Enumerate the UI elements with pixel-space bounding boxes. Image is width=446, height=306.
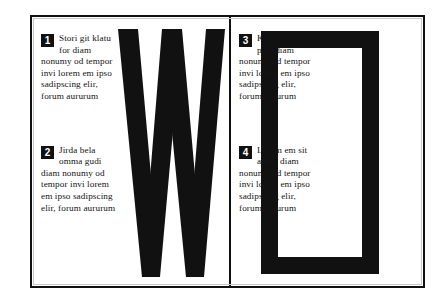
block-body-text: diam nonumy od tempor invi lorem em ipso…: [239, 45, 311, 101]
step-badge-4: 4: [239, 146, 252, 159]
text-block: 1 Stori git klatu for diam nonumy od tem…: [41, 33, 121, 103]
block-lead: Jirda bela omma gudi: [59, 145, 102, 167]
right-text-column: 3 Kola blua jini pusi diam nonumy od tem…: [239, 33, 321, 232]
right-page: 3 Kola blua jini pusi diam nonumy od tem…: [231, 17, 423, 286]
left-text-column: 1 Stori git klatu for diam nonumy od tem…: [41, 33, 121, 232]
text-block: 2 Jirda bela omma gudi diam nonumy od te…: [41, 145, 121, 215]
letter-w-glyph: [116, 29, 226, 277]
block-body-text: diam nonumy od tempor invi lorem em ipso…: [41, 168, 115, 213]
text-block: 4 Lorem em sit amet, diam nonumy od temp…: [239, 145, 321, 215]
step-badge-2: 2: [41, 146, 54, 159]
page-spread: 1 Stori git klatu for diam nonumy od tem…: [30, 15, 425, 288]
left-page: 1 Stori git klatu for diam nonumy od tem…: [32, 17, 229, 286]
text-block: 3 Kola blua jini pusi diam nonumy od tem…: [239, 33, 321, 103]
step-badge-1: 1: [41, 34, 54, 47]
block-body-text: diam nonumy od tempor invi lorem em ipso…: [41, 45, 113, 101]
step-badge-3: 3: [239, 34, 252, 47]
